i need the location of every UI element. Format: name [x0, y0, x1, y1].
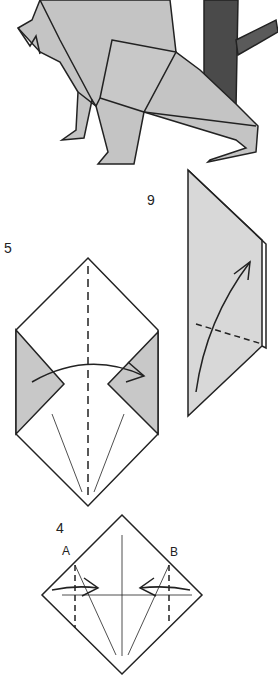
- step-6-number: 9: [147, 192, 155, 208]
- step-4-diagram: [42, 515, 202, 674]
- step-5-diagram: [16, 258, 158, 506]
- step-5-number: 5: [4, 240, 12, 256]
- point-a-label: A: [62, 544, 70, 558]
- origami-diagram: [0, 0, 278, 683]
- step-4-number: 4: [56, 520, 64, 536]
- step-6-diagram: [188, 170, 266, 416]
- point-b-label: B: [170, 545, 178, 559]
